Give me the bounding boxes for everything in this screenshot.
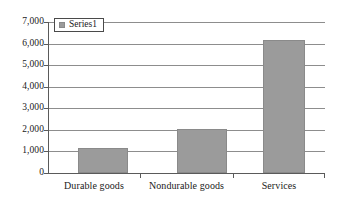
x-axis-line — [48, 173, 325, 174]
bar-services — [263, 40, 305, 173]
x-axis-label-services: Services — [233, 180, 325, 191]
x-axis-label-durable-goods: Durable goods — [48, 180, 140, 191]
x-tick-separator-1 — [140, 173, 141, 178]
x-tick-separator-2 — [233, 173, 234, 178]
plot-area — [48, 22, 325, 173]
legend-label-series1: Series1 — [69, 20, 97, 30]
bar-chart: 7,000 6,000 5,000 4,000 3,000 2,000 1,00… — [0, 0, 344, 210]
legend-swatch-series1 — [59, 22, 65, 28]
y-tick-5000 — [44, 65, 49, 66]
y-tick-4000 — [44, 87, 49, 88]
chart-legend: Series1 — [54, 18, 104, 32]
y-tick-7000 — [44, 22, 49, 23]
y-tick-3000 — [44, 108, 49, 109]
x-axis-label-nondurable-goods: Nondurable goods — [140, 180, 233, 191]
y-tick-2000 — [44, 130, 49, 131]
x-tick-end — [324, 173, 325, 178]
y-tick-6000 — [44, 44, 49, 45]
bar-durable-goods — [78, 148, 128, 173]
y-tick-0 — [44, 173, 49, 174]
bar-nondurable-goods — [177, 129, 227, 173]
y-tick-1000 — [44, 151, 49, 152]
